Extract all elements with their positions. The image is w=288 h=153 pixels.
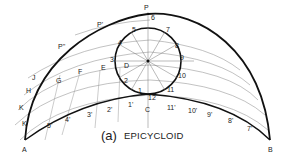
arc-label-H: H xyxy=(26,87,31,94)
circle-point-1: 1 xyxy=(138,87,142,94)
epicycloid-curve xyxy=(25,14,270,140)
label-P2: P'' xyxy=(58,43,65,50)
circle-point-7: 7 xyxy=(166,26,170,33)
base-point-7p: 7' xyxy=(247,125,252,132)
arc-label-F: F xyxy=(78,68,82,75)
base-point-5p: 5' xyxy=(47,122,52,129)
circle-point-9: 9 xyxy=(180,54,184,61)
arc-line xyxy=(24,52,250,95)
base-point-3p: 3' xyxy=(87,111,92,118)
arc-label-K2: K xyxy=(22,120,27,127)
circle-point-2: 2 xyxy=(124,77,128,84)
label-P: P xyxy=(144,4,149,11)
circle-point-11: 11 xyxy=(167,86,174,93)
epicycloid-diagram: P C A B P' P'' 1 2 3 4 5 6 7 8 9 10 11 1… xyxy=(0,0,288,153)
label-B: B xyxy=(268,146,273,153)
arc-line xyxy=(75,20,150,35)
caption-title: EPICYCLOID xyxy=(124,130,184,141)
circle-point-3: 3 xyxy=(110,56,114,63)
circle-point-10: 10 xyxy=(178,72,186,79)
base-point-1p: 1' xyxy=(128,101,133,108)
circle-point-4: 4 xyxy=(118,39,122,46)
arc-label-D: D xyxy=(124,62,129,69)
arc-label-G: G xyxy=(56,77,61,84)
caption-prefix: (a) xyxy=(101,128,117,143)
base-point-4p: 4' xyxy=(65,116,70,123)
label-A: A xyxy=(22,146,27,153)
base-point-11p: 11' xyxy=(167,104,176,111)
circle-point-8: 8 xyxy=(175,42,179,49)
base-point-8p: 8' xyxy=(228,117,233,124)
circle-point-5: 5 xyxy=(132,26,136,33)
arc-label-E: E xyxy=(101,64,106,71)
arc-label-K1: K xyxy=(19,104,24,111)
label-P1: P' xyxy=(97,21,103,28)
label-C: C xyxy=(145,106,150,113)
base-point-2p: 2' xyxy=(107,106,112,113)
arc-label-J: J xyxy=(32,74,36,81)
base-point-9p: 9' xyxy=(207,111,212,118)
circle-point-12: 12 xyxy=(148,94,156,101)
circle-point-6: 6 xyxy=(151,14,155,21)
base-point-10p: 10' xyxy=(188,107,197,114)
